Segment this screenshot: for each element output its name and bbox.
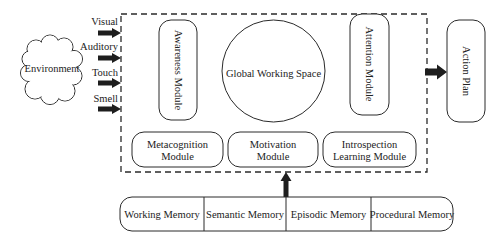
motivation-module-line1: Motivation [250, 139, 297, 150]
action-plan: Action Plan [447, 20, 485, 122]
memory-bar: Working Memory Semantic Memory Episodic … [120, 197, 455, 231]
metacognition-module-line1: Metacognition [147, 139, 209, 150]
environment-cloud: Environment [21, 35, 83, 105]
output-arrow-icon [425, 65, 447, 80]
architecture-diagram: Environment Visual Auditory Touch Smell … [0, 0, 504, 246]
introspection-learning-module: Introspection Learning Module [323, 132, 416, 167]
global-working-space: Global Working Space [222, 20, 325, 122]
memory-semantic: Semantic Memory [206, 209, 285, 220]
memory-episodic: Episodic Memory [291, 209, 367, 220]
attention-module-label: Attention Module [364, 27, 375, 102]
visual-arrow-icon [98, 28, 121, 38]
introspection-module-line2: Learning Module [333, 151, 407, 162]
auditory-arrow-icon [98, 53, 121, 63]
motivation-module: Motivation Module [228, 132, 318, 167]
input-label-touch: Touch [92, 67, 119, 78]
memory-up-arrow-icon [281, 172, 292, 197]
attention-module: Attention Module [350, 14, 389, 115]
action-plan-label: Action Plan [461, 46, 472, 97]
input-label-smell: Smell [93, 93, 118, 104]
input-label-auditory: Auditory [80, 41, 119, 52]
sensory-inputs: Visual Auditory Touch Smell [80, 16, 121, 115]
awareness-module-label: Awareness Module [173, 30, 184, 111]
smell-arrow-icon [98, 104, 121, 114]
memory-working: Working Memory [124, 209, 200, 220]
metacognition-module-line2: Module [161, 151, 194, 162]
metacognition-module: Metacognition Module [132, 132, 223, 167]
global-working-space-label: Global Working Space [226, 68, 322, 79]
memory-procedural: Procedural Memory [370, 209, 455, 220]
motivation-module-line2: Module [257, 151, 290, 162]
introspection-module-line1: Introspection [342, 139, 398, 150]
input-label-visual: Visual [91, 16, 118, 27]
environment-label: Environment [25, 63, 80, 74]
touch-arrow-icon [98, 78, 121, 88]
awareness-module: Awareness Module [159, 20, 197, 120]
